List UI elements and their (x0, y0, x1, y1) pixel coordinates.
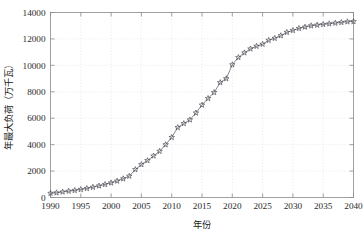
x-axis-tick-label: 2025 (253, 201, 272, 211)
x-axis-tick-label: 2020 (223, 201, 242, 211)
line-chart-svg: 02000400060008000100001200014000 1990199… (0, 0, 364, 234)
x-axis-tick-labels: 1990199520002005201020152020202520302035… (41, 201, 363, 211)
data-series-line (51, 21, 354, 193)
x-axis-tick-label: 2015 (193, 201, 212, 211)
x-axis-tick-label: 2010 (163, 201, 182, 211)
y-axis-tick-label: 10000 (23, 61, 46, 71)
y-axis-tick-labels: 02000400060008000100001200014000 (23, 8, 46, 203)
chart-figure: 02000400060008000100001200014000 1990199… (0, 0, 364, 234)
x-axis-tick-label: 1990 (41, 201, 60, 211)
x-axis-tick-label: 2030 (284, 201, 303, 211)
x-axis-title: 年份 (193, 219, 212, 230)
x-axis-tick-label: 2040 (344, 201, 363, 211)
y-axis-tick-label: 12000 (23, 34, 46, 44)
y-axis-tick-label: 8000 (27, 87, 46, 97)
y-axis-tick-label: 6000 (27, 113, 46, 123)
x-axis-tick-label: 2035 (314, 201, 333, 211)
x-axis-tick-label: 2005 (132, 201, 151, 211)
y-axis-tick-label: 14000 (23, 8, 46, 18)
y-axis-tick-label: 2000 (27, 166, 46, 176)
x-axis-tick-label: 2000 (102, 201, 121, 211)
x-axis-tick-label: 1995 (72, 201, 91, 211)
y-axis-tick-label: 4000 (27, 140, 46, 150)
y-axis-title: 年最大负荷（万千瓦） (3, 60, 14, 150)
series-trend-line (51, 21, 354, 193)
